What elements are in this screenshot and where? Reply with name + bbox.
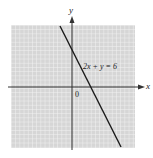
x-axis-arrow-icon — [138, 85, 145, 90]
coordinate-plane — [0, 0, 153, 158]
x-axis-label: x — [146, 82, 150, 91]
equation-label: 2x + y = 6 — [83, 63, 117, 71]
y-axis-label: y — [69, 6, 73, 15]
y-axis-arrow-icon — [70, 16, 75, 23]
origin-label: 0 — [75, 91, 79, 99]
